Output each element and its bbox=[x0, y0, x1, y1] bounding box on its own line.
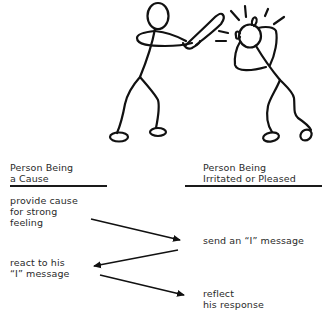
arrow-step1-to-step2 bbox=[91, 219, 180, 240]
right-header-line2: Irritated or Pleased bbox=[203, 173, 296, 184]
right-header-line1: Person Being bbox=[203, 162, 296, 173]
left-header-rule bbox=[10, 185, 107, 187]
step1-line3: feeling bbox=[10, 217, 78, 228]
step-send-i-message: send an “I” message bbox=[203, 235, 304, 246]
step3-line1: react to his bbox=[10, 257, 69, 268]
batter-figure bbox=[110, 3, 224, 142]
step2-line1: send an “I” message bbox=[203, 235, 304, 246]
step4-line1: reflect bbox=[203, 288, 264, 299]
pain-ray bbox=[265, 9, 268, 16]
step4-line2: his response bbox=[203, 299, 264, 310]
step-provide-cause: provide cause for strong feeling bbox=[10, 195, 78, 228]
batter-head-icon bbox=[148, 3, 169, 29]
arrow-step3-to-step4 bbox=[100, 275, 184, 295]
hit-figure bbox=[235, 17, 314, 142]
left-column-header: Person Being a Cause bbox=[10, 162, 73, 184]
arrow-step2-to-step3 bbox=[94, 250, 178, 266]
left-header-line2: a Cause bbox=[10, 173, 73, 184]
left-header-line1: Person Being bbox=[10, 162, 73, 173]
pain-ray bbox=[245, 6, 246, 17]
pain-ray bbox=[274, 17, 284, 24]
step-reflect-response: reflect his response bbox=[203, 288, 264, 310]
impact-line bbox=[219, 31, 228, 33]
step1-line2: for strong bbox=[10, 206, 78, 217]
right-header-rule bbox=[185, 185, 322, 187]
step3-line2: “I” message bbox=[10, 268, 69, 279]
step-react-to-i-message: react to his “I” message bbox=[10, 257, 69, 279]
step1-line1: provide cause bbox=[10, 195, 78, 206]
pain-ray bbox=[231, 11, 239, 20]
stick-figure-illustration bbox=[0, 0, 328, 160]
right-column-header: Person Being Irritated or Pleased bbox=[203, 162, 296, 184]
